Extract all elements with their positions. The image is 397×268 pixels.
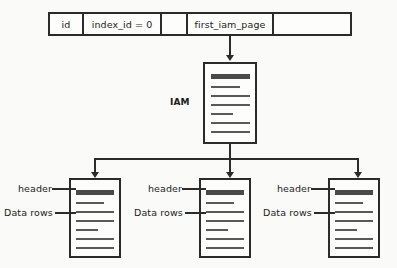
page-line [335,220,372,222]
page-header-bar [206,190,243,195]
data-rows-label-3: Data rows [263,207,312,218]
page-line [335,238,372,240]
header-label-1: header [18,183,52,194]
leader-header-1 [52,188,76,190]
page-line [335,202,363,204]
page-line [76,211,113,213]
page-line [76,202,104,204]
iam-page-lines [205,72,255,142]
page-line [211,131,250,133]
page-header-bar [76,190,113,195]
iam-page-icon [203,62,257,144]
data-page-icon-1 [69,178,121,258]
page-line [206,229,228,231]
leader-rows-1 [55,212,76,214]
data-page-icon-3 [328,178,380,258]
header-label-2: header [148,183,182,194]
page-line [211,86,240,88]
iam-label: IAM [170,97,190,107]
page-header-bar [211,74,250,79]
data-page-lines-3 [330,188,378,256]
page-line [76,247,113,249]
data-rows-label-1: Data rows [4,207,53,218]
connector-branch-bar [95,158,358,160]
table-cell-index-id: index_id = 0 [84,14,162,34]
data-page-lines-1 [71,188,119,256]
data-page-lines-2 [201,188,249,256]
page-line [76,238,113,240]
page-line [206,202,234,204]
leader-rows-3 [314,212,335,214]
table-cell-id: id [50,14,84,34]
leader-header-3 [311,188,335,190]
page-line [76,220,113,222]
page-line [206,238,243,240]
connector-row-to-iam [229,36,231,56]
leader-rows-2 [185,212,206,214]
page-header-bar [335,190,372,195]
page-line [206,220,243,222]
arrowhead-row-to-iam [226,55,234,61]
page-line [335,247,372,249]
page-line [335,211,372,213]
page-line [206,247,243,249]
table-cell-blank-2 [274,14,350,34]
page-line [211,113,234,115]
page-line [76,229,98,231]
data-page-icon-2 [199,178,251,258]
page-line [211,104,250,106]
page-line [335,229,357,231]
diagram-canvas: id index_id = 0 first_iam_page IAM [0,0,397,268]
page-line [206,211,243,213]
sysindexes-row-table: id index_id = 0 first_iam_page [48,12,352,36]
data-rows-label-2: Data rows [134,207,183,218]
page-line [211,122,250,124]
table-cell-first-iam-page: first_iam_page [188,14,274,34]
page-line [211,95,250,97]
table-cell-blank-1 [162,14,188,34]
leader-header-2 [182,188,206,190]
header-label-3: header [277,183,311,194]
